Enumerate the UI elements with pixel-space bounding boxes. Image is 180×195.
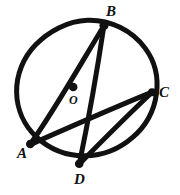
vertex-dot-A — [26, 140, 35, 149]
center-dot-O — [69, 83, 78, 92]
vertex-dot-D — [75, 160, 84, 169]
vertex-dot-B — [99, 21, 108, 30]
center-label-o: O — [69, 94, 78, 106]
vertex-label-b: B — [106, 4, 116, 19]
vertex-dot-C — [148, 88, 156, 96]
vertex-label-d: D — [74, 172, 85, 187]
chords-group — [31, 26, 152, 164]
figure-canvas — [0, 0, 180, 195]
vertex-label-c: C — [159, 85, 169, 100]
vertex-label-a: A — [17, 146, 27, 161]
circle-geometry-figure: B C A D O — [0, 0, 180, 195]
